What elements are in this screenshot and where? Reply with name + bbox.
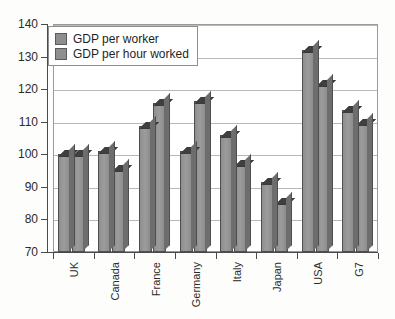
x-tick-germany (216, 253, 217, 259)
x-tick-japan (297, 253, 298, 259)
y-tick-130 (41, 57, 48, 58)
x-tick-g7 (378, 253, 379, 259)
x-tick-usa (337, 253, 338, 259)
bar-side-face (367, 113, 373, 251)
x-tick-italy (256, 253, 257, 259)
legend-item-gdp-per-hour-worked: GDP per hour worked (55, 46, 189, 61)
x-tick-label-germany: Germany (191, 262, 202, 307)
x-axis-line (47, 252, 378, 253)
legend-item-gdp-per-worker: GDP per worker (55, 31, 189, 46)
bar-germany-series-1 (180, 151, 193, 252)
x-tick-label-canada: Canada (110, 262, 121, 301)
y-tick-label-140: 140 (0, 18, 38, 30)
bar-side-face (150, 116, 156, 251)
bar-side-face (191, 141, 197, 251)
bar-g7-series-1 (342, 110, 355, 252)
y-tick-80 (41, 219, 48, 220)
bar-side-face (327, 74, 333, 251)
x-tick-label-italy: Italy (232, 262, 243, 282)
bar-uk-series-1 (58, 154, 71, 252)
bar-usa-series-1 (302, 50, 315, 252)
bar-side-face (231, 125, 237, 251)
legend-label-series-1: GDP per worker (73, 33, 159, 45)
y-tick-label-70: 70 (0, 246, 38, 258)
y-tick-110 (41, 122, 48, 123)
legend-swatch-series-1 (55, 33, 67, 45)
bar-france-series-1 (139, 126, 152, 252)
bar-side-face (69, 144, 75, 251)
y-tick-120 (41, 89, 48, 90)
bar-chart: 708090100110120130140 UKCanadaFranceGerm… (0, 0, 395, 319)
bar-side-face (164, 93, 170, 251)
x-tick-label-usa: USA (313, 262, 324, 285)
x-tick-label-japan: Japan (272, 262, 283, 292)
legend-label-series-2: GDP per hour worked (73, 48, 189, 60)
x-tick-origin (53, 253, 54, 259)
bar-side-face (272, 172, 278, 251)
y-tick-label-120: 120 (0, 83, 38, 95)
y-tick-label-110: 110 (0, 116, 38, 128)
x-tick-france (175, 253, 176, 259)
y-tick-90 (41, 187, 48, 188)
bar-side-face (353, 100, 359, 251)
x-tick-label-france: France (151, 262, 162, 296)
bar-side-face (313, 40, 319, 251)
bar-side-face (245, 154, 251, 251)
bar-side-face (286, 192, 292, 251)
y-tick-100 (41, 154, 48, 155)
bar-side-face (109, 141, 115, 251)
x-tick-canada (134, 253, 135, 259)
y-tick-label-90: 90 (0, 181, 38, 193)
bar-italy-series-1 (220, 135, 233, 252)
x-tick-uk (94, 253, 95, 259)
y-tick-label-130: 130 (0, 51, 38, 63)
bar-canada-series-1 (98, 151, 111, 252)
bar-japan-series-1 (261, 182, 274, 252)
y-tick-label-80: 80 (0, 213, 38, 225)
x-tick-label-uk: UK (69, 262, 80, 277)
legend-swatch-series-2 (55, 48, 67, 60)
y-tick-140 (41, 24, 48, 25)
y-tick-label-100: 100 (0, 148, 38, 160)
bar-side-face (205, 91, 211, 251)
bar-side-face (83, 144, 89, 251)
chart-legend: GDP per worker GDP per hour worked (48, 26, 198, 66)
x-tick-label-g7: G7 (354, 262, 365, 277)
bar-side-face (123, 159, 129, 251)
